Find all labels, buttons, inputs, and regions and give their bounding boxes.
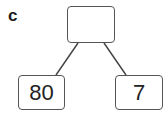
connector-left bbox=[56, 43, 78, 75]
connector-right bbox=[104, 43, 126, 75]
part-value-left: 80 bbox=[29, 80, 53, 106]
part-box-right: 7 bbox=[115, 75, 163, 110]
part-value-right: 7 bbox=[133, 80, 145, 106]
whole-box[interactable] bbox=[67, 6, 115, 43]
part-box-left: 80 bbox=[18, 75, 65, 110]
